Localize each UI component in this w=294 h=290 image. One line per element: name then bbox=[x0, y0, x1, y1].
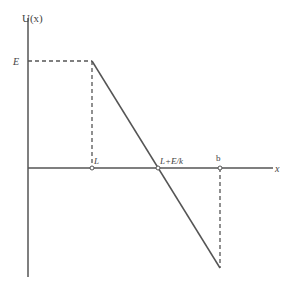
energy-label: E bbox=[12, 56, 19, 67]
potential-diagram: U(x) x E L L+E/k b bbox=[0, 0, 294, 290]
b-label: b bbox=[216, 153, 221, 163]
zero-crossing-point bbox=[156, 166, 160, 170]
zero-crossing-label: L+E/k bbox=[159, 156, 184, 166]
potential-slope bbox=[92, 61, 220, 268]
x-axis-label: x bbox=[274, 163, 280, 174]
L-label: L bbox=[93, 156, 99, 166]
L-point bbox=[90, 166, 94, 170]
y-axis-label: U(x) bbox=[22, 12, 43, 25]
b-point bbox=[218, 166, 222, 170]
